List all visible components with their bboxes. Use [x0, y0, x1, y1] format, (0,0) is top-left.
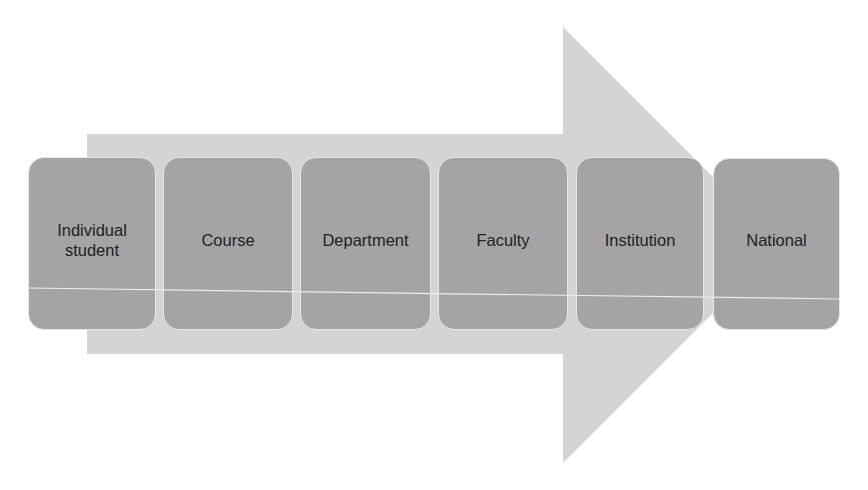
stage-box-institution: Institution	[576, 157, 704, 330]
stage-box-national: National	[713, 158, 840, 330]
stage-box-faculty: Faculty	[438, 157, 568, 330]
stage-label: Faculty	[476, 230, 529, 250]
stage-label: Course	[201, 230, 254, 250]
stage-label: National	[746, 230, 807, 250]
stage-label: Individual student	[42, 220, 142, 260]
stage-box-individual-student: Individual student	[28, 157, 156, 330]
stage-label: Department	[322, 230, 408, 250]
stage-box-department: Department	[300, 157, 431, 330]
stage-label: Institution	[605, 230, 676, 250]
stage-box-course: Course	[163, 157, 293, 330]
